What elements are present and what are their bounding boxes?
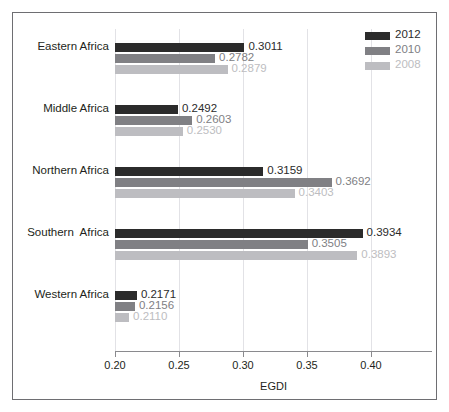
bar-group: Northern Africa0.31590.36920.3403 — [115, 167, 432, 200]
bar[interactable] — [115, 291, 137, 300]
legend-label: 2012 — [395, 28, 421, 40]
bar[interactable] — [115, 116, 192, 125]
bar-value-label: 0.3893 — [361, 248, 396, 260]
x-tick-label: 0.40 — [360, 359, 381, 371]
bar-value-label: 0.3403 — [299, 186, 334, 198]
bar-value-label: 0.3159 — [267, 164, 302, 176]
x-tick — [115, 351, 116, 357]
x-tick-label: 0.35 — [296, 359, 317, 371]
legend-label: 2008 — [395, 58, 421, 70]
bar[interactable] — [115, 167, 263, 176]
legend-item[interactable]: 2008 — [365, 59, 439, 72]
bar-value-label: 0.2879 — [232, 62, 267, 74]
category-label: Western Africa — [34, 288, 109, 300]
legend-item[interactable]: 2010 — [365, 44, 439, 57]
bar[interactable] — [115, 251, 357, 260]
x-tick-label: 0.25 — [168, 359, 189, 371]
category-label: Northern Africa — [32, 164, 109, 176]
x-tick — [307, 351, 308, 357]
x-tick-label: 0.20 — [104, 359, 125, 371]
bar[interactable] — [115, 127, 183, 136]
plot-area: 0.200.250.300.350.40 Eastern Africa0.301… — [115, 29, 432, 351]
bar[interactable] — [115, 105, 178, 114]
bar-group: Western Africa0.21710.21560.2110 — [115, 291, 432, 324]
bar-value-label: 0.2110 — [133, 310, 167, 322]
category-label: Middle Africa — [43, 102, 109, 114]
bar-value-label: 0.2530 — [187, 124, 222, 136]
category-label: Eastern Africa — [37, 40, 109, 52]
x-tick — [243, 351, 244, 357]
bar-value-label: 0.3934 — [367, 226, 402, 238]
bar-value-label: 0.3505 — [312, 237, 347, 249]
x-tick — [179, 351, 180, 357]
chart-figure: 0.200.250.300.350.40 Eastern Africa0.301… — [12, 12, 437, 400]
legend-label: 2010 — [395, 43, 421, 55]
bar[interactable] — [115, 65, 228, 74]
bar[interactable] — [115, 302, 135, 311]
legend-swatch — [365, 47, 390, 55]
legend-swatch — [365, 62, 390, 70]
legend-swatch — [365, 32, 390, 40]
legend-item[interactable]: 2012 — [365, 29, 439, 42]
bar[interactable] — [115, 189, 295, 198]
bar[interactable] — [115, 240, 308, 249]
bar-group: Middle Africa0.24920.26030.2530 — [115, 105, 432, 138]
bar[interactable] — [115, 54, 215, 63]
chart-legend: 201220102008 — [365, 29, 439, 74]
category-label: Southern Africa — [27, 226, 109, 238]
x-tick — [371, 351, 372, 357]
x-axis-line — [115, 351, 432, 352]
x-tick-label: 0.30 — [232, 359, 253, 371]
x-axis-title: EGDI — [115, 380, 432, 392]
bar-group: Southern Africa0.39340.35050.3893 — [115, 229, 432, 262]
bar-value-label: 0.3692 — [336, 175, 371, 187]
bar[interactable] — [115, 313, 129, 322]
